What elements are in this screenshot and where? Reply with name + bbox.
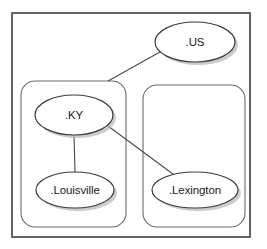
- domain-hierarchy-diagram: .US .KY .Louisville .Lexington: [0, 0, 267, 249]
- node-ky-label: .KY: [65, 109, 84, 121]
- node-louisville-label: .Louisville: [50, 184, 99, 196]
- node-us-label: .US: [186, 36, 205, 48]
- node-lexington-label: .Lexington: [169, 184, 221, 196]
- diagram-canvas: .US .KY .Louisville .Lexington: [0, 0, 267, 249]
